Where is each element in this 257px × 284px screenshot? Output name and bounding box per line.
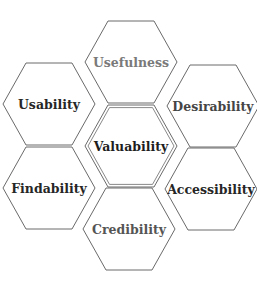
hex-label-findability: Findability: [11, 181, 87, 196]
hex-label-desirability: Desirability: [172, 99, 254, 114]
hex-label-usability: Usability: [18, 97, 81, 112]
honeycomb-diagram: UsefulnessUsabilityDesirabilityValuabili…: [0, 0, 257, 284]
hex-label-valuability: Valuability: [93, 139, 169, 154]
hex-label-usefulness: Usefulness: [93, 55, 169, 70]
hex-label-credibility: Credibility: [92, 222, 167, 237]
hex-label-accessibility: Accessibility: [166, 182, 255, 197]
